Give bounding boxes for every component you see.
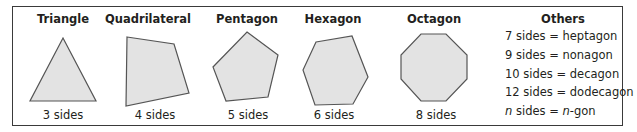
hexagon-shape [303,36,368,105]
others-item-decagon: 10 sides = decagon [505,65,634,84]
octagon-sides: 8 sides [416,108,457,122]
quadrilateral-sides: 4 sides [135,108,176,122]
others-item-dodecagon: 12 sides = dodecagon [505,83,634,102]
triangle-title: Triangle [37,12,89,26]
octagon-title: Octagon [407,12,461,26]
triangle-sides: 3 sides [43,108,84,122]
triangle-shape [30,38,96,101]
others-item-nonagon: 9 sides = nonagon [505,46,634,65]
pentagon-shape [213,32,278,101]
pentagon-sides: 5 sides [228,108,269,122]
hexagon-title: Hexagon [305,12,362,26]
pentagon-title: Pentagon [216,12,278,26]
quadrilateral-title: Quadrilateral [105,12,191,26]
octagon-shape [401,34,467,101]
others-list: 7 sides = heptagon 9 sides = nonagon 10 … [505,27,634,121]
others-title: Others [541,12,585,26]
quadrilateral-shape [126,37,189,106]
others-item-heptagon: 7 sides = heptagon [505,27,634,46]
hexagon-sides: 6 sides [314,108,355,122]
others-item-n-gon: n sides = n-gon [505,102,634,121]
